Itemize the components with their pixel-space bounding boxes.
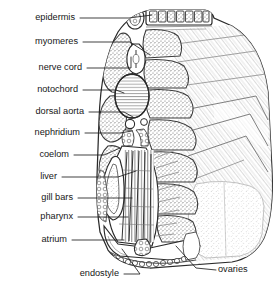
- label-endostyle: endostyle: [80, 268, 119, 278]
- label-nerve-cord: nerve cord: [39, 62, 82, 72]
- label-nephridium: nephridium: [35, 127, 81, 137]
- label-epidermis: epidermis: [35, 12, 75, 22]
- label-notochord: notochord: [37, 84, 78, 94]
- label-ovaries: ovaries: [218, 264, 248, 274]
- endostyle-body: [134, 239, 150, 256]
- label-gill-bars: gill bars: [41, 192, 73, 202]
- notochord-body: [115, 74, 149, 118]
- gonad-fold: [183, 232, 200, 260]
- label-myomeres: myomeres: [35, 36, 78, 46]
- label-pharynx: pharynx: [40, 211, 73, 221]
- label-liver: liver: [40, 171, 57, 181]
- amphioxus-cross-section-figure: epidermismyomeresnerve cordnotochorddors…: [0, 0, 277, 287]
- label-coelom: coelom: [39, 149, 69, 159]
- nerve-cord-body: [127, 44, 145, 74]
- label-atrium: atrium: [41, 234, 67, 244]
- label-dorsal-aorta: dorsal aorta: [35, 106, 84, 116]
